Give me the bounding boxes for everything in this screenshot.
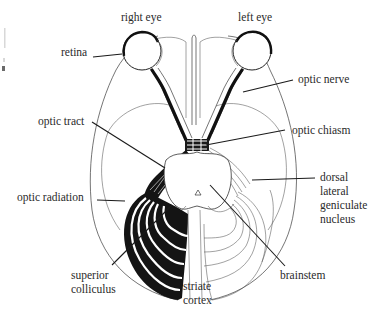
optic-radiation-right (124, 192, 188, 300)
label-striate-cortex-line1: striate (183, 280, 211, 292)
leader-dlgn (252, 178, 315, 180)
label-optic-chiasm: optic chiasm (292, 124, 350, 137)
label-dlgn-line4: nucleus (320, 213, 356, 225)
label-optic-tract: optic tract (38, 115, 85, 128)
left-edge-artifacts (2, 28, 6, 71)
leader-brainstem (210, 185, 285, 266)
leader-optic-tract (92, 122, 165, 168)
optic-nerve-right (150, 68, 192, 140)
label-striate-cortex-line2: cortex (183, 294, 212, 306)
leader-optic-radiation (97, 200, 125, 201)
label-optic-nerve: optic nerve (298, 73, 349, 86)
label-brainstem: brainstem (280, 269, 325, 281)
label-optic-radiation: optic radiation (17, 191, 84, 204)
label-dlgn-line1: dorsal (320, 171, 348, 183)
label-right-eye: right eye (121, 11, 162, 24)
label-dlgn-line3: geniculate (320, 199, 367, 212)
right-eye (123, 32, 162, 70)
label-superior-colliculus-line2: colliculus (71, 283, 116, 295)
label-dlgn-line2: lateral (320, 185, 349, 197)
leader-retina (93, 54, 122, 57)
visual-pathway-diagram: right eye left eye retina optic nerve op… (0, 0, 386, 316)
label-superior-colliculus-line1: superior (71, 269, 109, 282)
optic-chiasm (185, 139, 209, 151)
leader-optic-chiasm (206, 130, 285, 145)
leader-optic-nerve (243, 80, 293, 92)
label-retina: retina (61, 46, 87, 58)
left-eye (232, 32, 271, 70)
label-left-eye: left eye (238, 11, 272, 24)
